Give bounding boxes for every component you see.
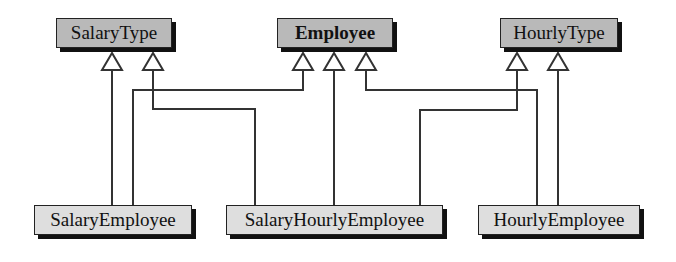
class-label: Employee <box>295 22 375 44</box>
edge-salaryemployee-employee <box>133 70 303 205</box>
arrowhead-icon <box>548 53 568 70</box>
class-label: SalaryHourlyEmployee <box>245 209 424 231</box>
class-salaryemployee: SalaryEmployee <box>34 205 192 235</box>
class-label: HourlyType <box>513 22 605 44</box>
class-employee: Employee <box>277 18 393 48</box>
class-salaryhourlyemployee: SalaryHourlyEmployee <box>226 205 443 235</box>
generalization-arrowheads <box>102 53 568 70</box>
arrowhead-icon <box>143 53 163 70</box>
arrowhead-icon <box>324 53 344 70</box>
arrowhead-icon <box>102 53 122 70</box>
arrowhead-icon <box>507 53 527 70</box>
edge-hourlyemployee-employee <box>366 70 537 205</box>
arrowhead-icon <box>356 53 376 70</box>
class-hourlyemployee: HourlyEmployee <box>478 205 640 235</box>
class-label: SalaryEmployee <box>50 209 176 231</box>
class-hourlytype: HourlyType <box>500 18 618 48</box>
class-label: SalaryType <box>71 22 157 44</box>
arrowhead-icon <box>293 53 313 70</box>
class-salarytype: SalaryType <box>56 18 172 48</box>
class-label: HourlyEmployee <box>494 209 625 231</box>
